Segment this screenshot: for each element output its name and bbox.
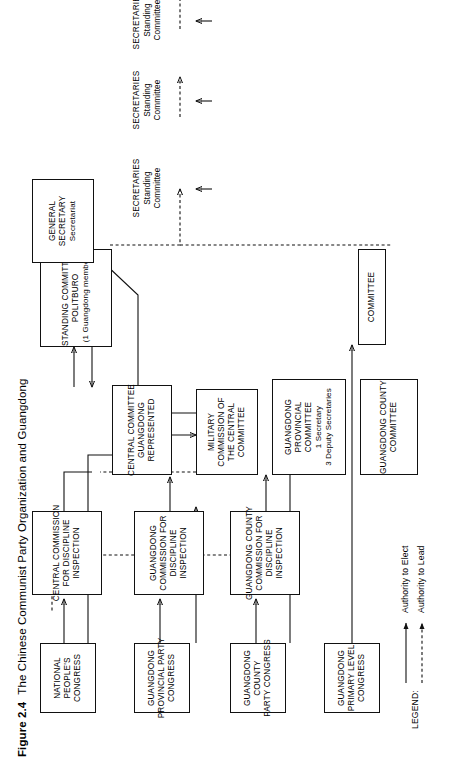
ctysec-line-3: Committee: [153, 80, 164, 121]
gdcpc-line-1: GUANGDONG: [243, 650, 253, 706]
primsec-line-3: Committee: [153, 0, 164, 40]
figure-title: The Chinese Communist Party Organization…: [16, 379, 28, 695]
sc-line-2: POLITBURO: [71, 274, 81, 323]
gdccdi-line-3: DISCIPLINE: [265, 530, 275, 577]
sc-line-1: STANDING COMMITTEE: [61, 250, 71, 346]
figure-number: Figure 2.4: [16, 702, 28, 757]
primary-committee-line-1: COMMITTEE: [367, 272, 377, 322]
ccdi-line-2: FOR DISCIPLINE: [62, 519, 72, 586]
milcom-line-3: THE CENTRAL: [227, 403, 237, 462]
box-gd-provincial-party-congress[interactable]: GUANGDONG PROVINCIAL PARTY CONGRESS: [134, 643, 190, 713]
gdpc-line-1: GUANGDONG: [284, 399, 294, 455]
gdplc-line-1: GUANGDONG: [337, 650, 347, 706]
gdplc-line-2: PRIMARY LEVEL: [347, 645, 357, 712]
gdplc-line-3: CONGRESS: [357, 654, 367, 702]
label-primary-secretaries: SECRETARIES Standing Committee: [132, 0, 164, 57]
npc-line-1: NATIONAL: [53, 657, 63, 699]
gdsec-line-3: Committee: [153, 168, 164, 209]
gensec-line-1: GENERAL: [48, 201, 58, 241]
label-gd-secretaries: SECRETARIES Standing Committee: [132, 151, 164, 225]
ctysec-line-1: SECRETARIES: [132, 71, 143, 130]
box-gd-primary-level-congress[interactable]: GUANGDONG PRIMARY LEVEL CONGRESS: [324, 643, 380, 713]
legend: LEGEND: Authority to Elect Authority to …: [396, 429, 444, 729]
box-gd-county-commission-discipline-inspection[interactable]: GUANGDONG COUNTY COMMISSION FOR DISCIPLI…: [230, 511, 300, 595]
box-national-peoples-congress[interactable]: NATIONAL PEOPLE'S CONGRESS: [40, 643, 96, 713]
gensec-line-3: Secretariat: [68, 201, 78, 241]
gdppc-line-2: PROVINCIAL PARTY: [157, 638, 167, 719]
cc-line-3: REPRESENTED: [147, 398, 157, 461]
ctysec-line-2: Standing: [143, 83, 154, 117]
gdpc-line-5: 3 Deputy Secretaries: [324, 388, 334, 466]
gdcdi-line-3: DISCIPLINE: [169, 530, 179, 577]
gdccdi-line-4: INSPECTION: [275, 527, 285, 579]
legend-lead-label: Authority to Lead: [416, 545, 426, 613]
primsec-line-1: SECRETARIES: [132, 0, 143, 49]
npc-line-3: CONGRESS: [73, 654, 83, 702]
gdpc-line-4: 1 Secretary: [314, 406, 324, 449]
cc-line-2: GUANGDONG: [137, 402, 147, 458]
gdcdi-line-2: COMMISSION FOR: [159, 515, 169, 590]
gdccdi-line-1: GUANGDONG COUNTY: [245, 506, 255, 600]
milcom-line-2: COMMISSION OF: [217, 397, 227, 466]
box-gd-provincial-committee[interactable]: GUANGDONG PROVINCIAL COMMITTEE 1 Secreta…: [272, 379, 346, 475]
gdcpc-line-2: COUNTY: [253, 660, 263, 695]
gdppc-line-3: CONGRESS: [167, 654, 177, 702]
gdcdi-line-4: INSPECTION: [179, 527, 189, 579]
legend-arrows: [396, 383, 444, 683]
wire-cdi-to-committee-bus: [64, 472, 92, 512]
gdpc-line-3: COMMITTEE: [304, 402, 314, 452]
gdsec-line-1: SECRETARIES: [132, 159, 143, 218]
box-central-commission-discipline-inspection[interactable]: CENTRAL COMMISSION FOR DISCIPLINE INSPEC…: [32, 511, 102, 595]
gdppc-line-1: GUANGDONG: [147, 650, 157, 706]
box-central-committee[interactable]: CENTRAL COMMITTEE GUANGDONG REPRESENTED: [112, 385, 172, 475]
box-military-commission-central-committee[interactable]: MILITARY COMMISSION OF THE CENTRAL COMMI…: [196, 389, 258, 475]
rotated-figure-canvas: Figure 2.4The Chinese Communist Party Or…: [0, 0, 452, 765]
box-gd-county-party-congress[interactable]: GUANGDONG COUNTY PARTY CONGRESS: [230, 643, 286, 713]
milcom-line-4: COMMITTEE: [237, 407, 247, 457]
box-gd-commission-discipline-inspection[interactable]: GUANGDONG COMMISSION FOR DISCIPLINE INSP…: [134, 511, 204, 595]
gdpc-line-2: PROVINCIAL: [294, 401, 304, 452]
gdcpc-line-3: PARTY CONGRESS: [263, 639, 273, 717]
gdcdi-line-1: GUANGDONG: [149, 525, 159, 581]
ccdi-line-3: INSPECTION: [72, 527, 82, 579]
box-standing-committee-politburo[interactable]: STANDING COMMITTEE POLITBURO (1 Guangdon…: [40, 249, 112, 347]
sc-line-3: (1 Guangdong member): [81, 254, 91, 342]
box-general-secretary[interactable]: GENERAL SECRETARY Secretariat: [32, 179, 94, 263]
gdcc-line-1: GUANGDONG COUNTY: [379, 380, 389, 474]
box-primary-committee[interactable]: COMMITTEE: [358, 249, 386, 345]
legend-title: LEGEND:: [410, 690, 420, 729]
label-county-secretaries: SECRETARIES Standing Committee: [132, 63, 164, 137]
gdsec-line-2: Standing: [143, 171, 154, 205]
gensec-line-2: SECRETARY: [58, 196, 68, 247]
diagram-stage: Figure 2.4The Chinese Communist Party Or…: [0, 0, 452, 765]
cc-line-1: CENTRAL COMMITTEE: [127, 384, 137, 476]
npc-line-2: PEOPLE'S: [63, 658, 73, 699]
figure-caption: Figure 2.4The Chinese Communist Party Or…: [16, 379, 28, 757]
primsec-line-2: Standing: [143, 3, 154, 37]
ccdi-line-1: CENTRAL COMMISSION: [52, 505, 62, 602]
legend-elect-label: Authority to Elect: [400, 545, 410, 613]
milcom-line-1: MILITARY: [207, 413, 217, 451]
figure-page: Figure 2.4The Chinese Communist Party Or…: [0, 0, 452, 765]
gdccdi-line-2: COMMISSION FOR: [255, 515, 265, 590]
